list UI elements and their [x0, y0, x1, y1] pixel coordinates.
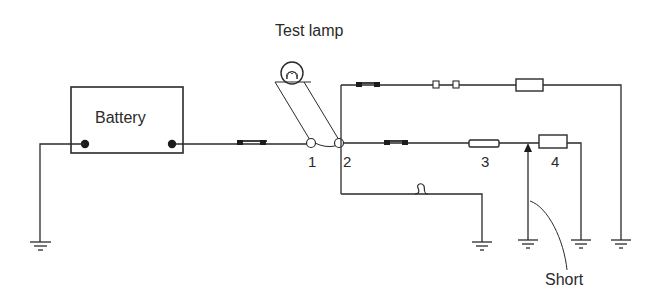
test-point-2[interactable]: [335, 139, 344, 148]
fuse-terminal-icon: [453, 81, 459, 88]
fuse-terminal-icon: [433, 81, 439, 88]
loop-icon: [415, 184, 428, 194]
component-4-icon: [539, 135, 567, 148]
ground-icon: [472, 242, 492, 250]
point-label-3: 3: [481, 153, 489, 170]
point-label-1: 1: [308, 153, 316, 170]
battery-ground-wire: [30, 144, 85, 250]
point-label-2: 2: [343, 153, 351, 170]
test-lead-link: [315, 143, 335, 147]
test-lamp-title: Test lamp: [275, 22, 344, 39]
battery: Battery: [71, 87, 183, 153]
component-3-icon: [469, 140, 499, 147]
lamp-bulb-icon: [281, 62, 303, 84]
circuit-diagram: Test lamp Battery 1 2: [0, 0, 657, 305]
ground-icon: [611, 240, 631, 248]
load-resistor-icon: [516, 79, 543, 91]
test-point-1[interactable]: [307, 139, 316, 148]
battery-terminal-positive: [168, 140, 176, 148]
lower-branch: [341, 184, 492, 250]
ground-icon: [571, 240, 591, 248]
point-label-4: 4: [551, 153, 559, 170]
short-label: Short: [545, 271, 584, 288]
ground-icon: [30, 242, 51, 250]
short-leader-line: [530, 201, 567, 270]
test-lamp: [275, 62, 339, 140]
middle-branch: 3 4: [344, 135, 591, 248]
ground-icon: [518, 240, 538, 248]
battery-label: Battery: [95, 109, 146, 126]
arrow-up-icon: [524, 143, 532, 152]
